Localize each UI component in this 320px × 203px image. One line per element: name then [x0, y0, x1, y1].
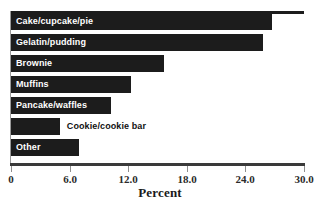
- bar-series: Cake/cupcake/pieGelatin/puddingBrownieMu…: [11, 13, 304, 163]
- x-tick: [11, 166, 12, 172]
- x-tick: [304, 166, 305, 172]
- chart-title-clipped: [0, 0, 320, 7]
- bar-category-label: Pancake/waffles: [11, 97, 87, 114]
- bar-chart: Cake/cupcake/pieGelatin/puddingBrownieMu…: [0, 0, 320, 203]
- x-tick: [245, 166, 246, 172]
- bar-category-label: Cake/cupcake/pie: [11, 13, 93, 30]
- x-axis-label: Percent: [0, 185, 320, 201]
- bar-row: Pancake/waffles: [11, 97, 304, 118]
- x-tick-label: 6.0: [63, 173, 77, 185]
- x-tick: [70, 166, 71, 172]
- plot-area: Cake/cupcake/pieGelatin/puddingBrownieMu…: [11, 11, 304, 163]
- x-axis-ticks: [11, 166, 304, 172]
- x-tick: [128, 166, 129, 172]
- bar-row: Other: [11, 139, 304, 160]
- bar-category-label: Muffins: [11, 76, 49, 93]
- bar-category-label: Other: [11, 139, 41, 156]
- bar-row: Muffins: [11, 76, 304, 97]
- bar-row: Cake/cupcake/pie: [11, 13, 304, 34]
- x-tick-label: 24.0: [235, 173, 254, 185]
- bar-row: Brownie: [11, 55, 304, 76]
- x-tick-label: 0: [8, 173, 14, 185]
- bar: [11, 118, 60, 135]
- bar-row: Gelatin/pudding: [11, 34, 304, 55]
- bar-category-label: Cookie/cookie bar: [60, 118, 146, 135]
- x-tick-label: 12.0: [118, 173, 137, 185]
- x-tick-label: 18.0: [177, 173, 196, 185]
- bar-category-label: Brownie: [11, 55, 52, 72]
- bar-row: Cookie/cookie bar: [11, 118, 304, 139]
- x-tick-label: 30.0: [294, 173, 313, 185]
- bar-category-label: Gelatin/pudding: [11, 34, 86, 51]
- x-tick: [187, 166, 188, 172]
